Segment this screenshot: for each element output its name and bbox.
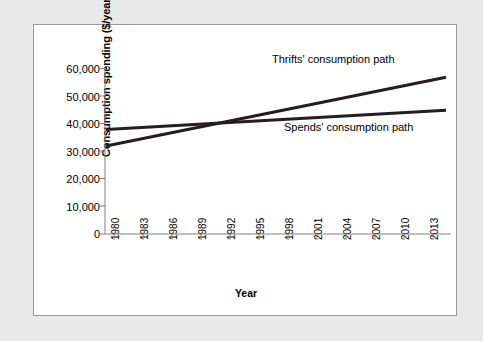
x-axis-title: Year xyxy=(34,287,458,299)
figure-frame: Consumption spending ($/year) 60,000 50,… xyxy=(33,24,457,316)
series-label-thrifts: Thrifts' consumption path xyxy=(272,53,395,65)
series-label-spends: Spends' consumption path xyxy=(284,121,413,133)
plot-area: Consumption spending ($/year) 60,000 50,… xyxy=(34,25,458,317)
chart-canvas xyxy=(34,25,458,317)
